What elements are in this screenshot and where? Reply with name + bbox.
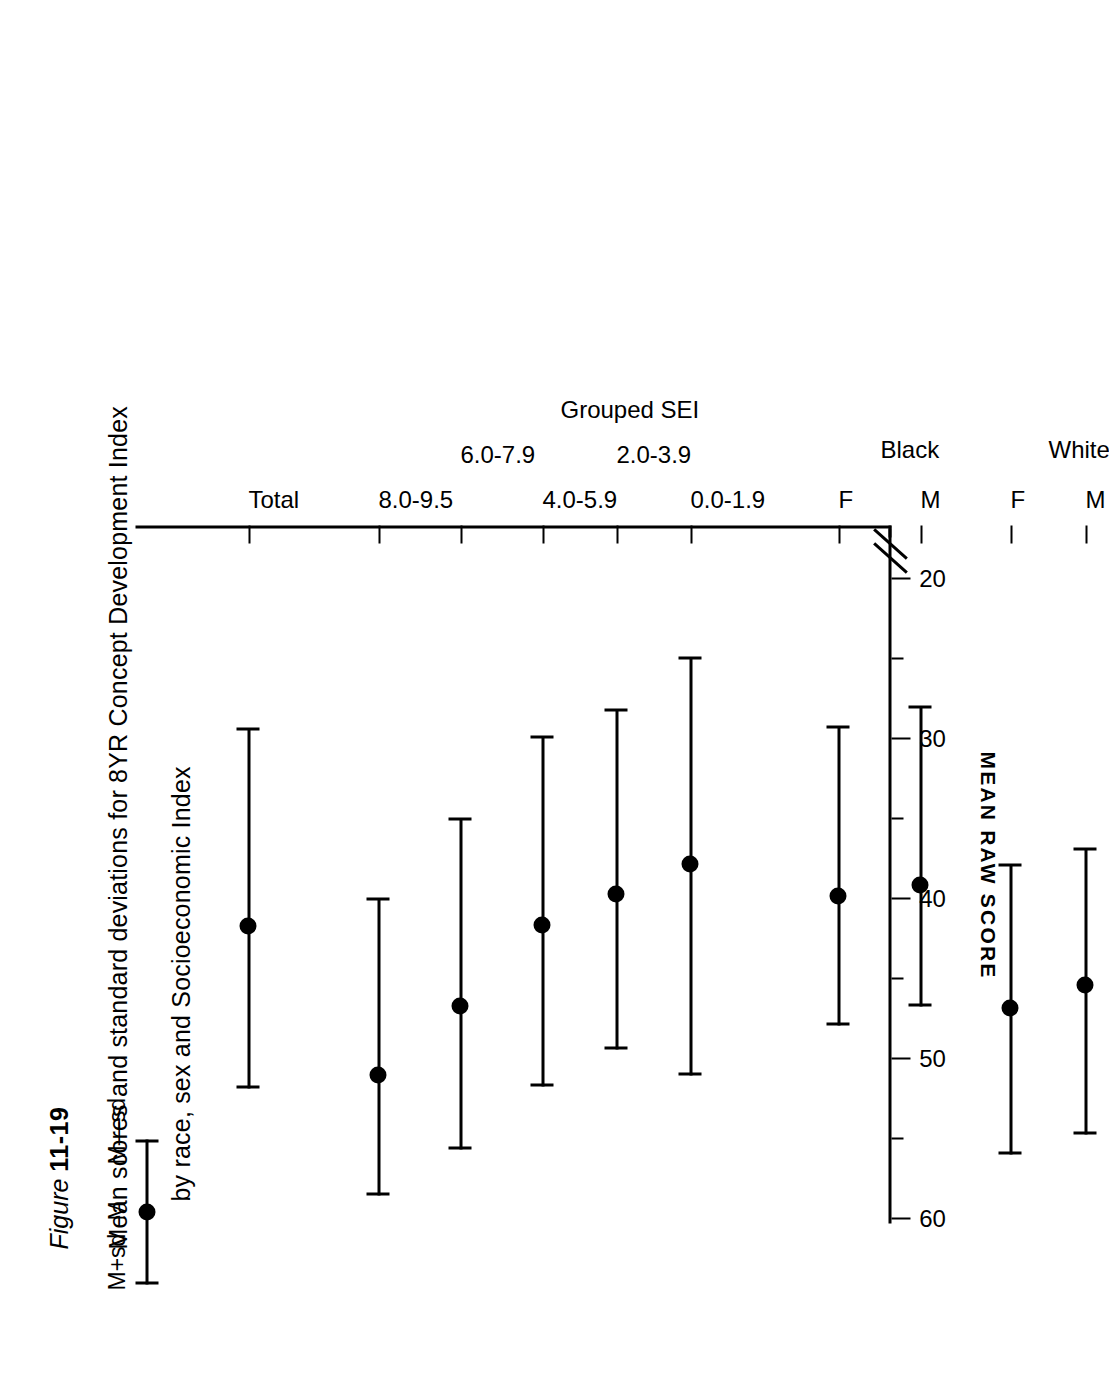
error-bar-line xyxy=(541,736,544,1086)
category-tick-6-0-7-9 xyxy=(460,525,462,543)
error-bar-cap-lower xyxy=(826,725,849,728)
error-bar-cap-upper xyxy=(236,1085,259,1088)
mean-dot xyxy=(607,885,624,902)
category-tick-0-0-1-9 xyxy=(690,525,692,543)
legend-upper-label: M+sd xyxy=(103,1233,130,1290)
group-label-white: White xyxy=(1048,435,1109,463)
mean-dot xyxy=(369,1066,386,1083)
error-bar-cap-upper xyxy=(604,1046,627,1049)
mean-dot xyxy=(911,876,928,893)
category-label-8-0-9-5: 8.0-9.5 xyxy=(378,485,453,513)
figure-number-prefix: Figure xyxy=(44,1178,72,1249)
category-label-white-f: F xyxy=(1010,485,1025,513)
figure-number: Figure 11-19 xyxy=(46,1106,71,1249)
mean-dot xyxy=(1076,976,1093,993)
value-tick-label-50: 50 xyxy=(919,1044,946,1072)
error-bar-cap-lower xyxy=(908,705,931,708)
error-bar-cap-lower xyxy=(678,656,701,659)
category-tick-8-0-9-5 xyxy=(378,525,380,543)
category-label-0-0-1-9: 0.0-1.9 xyxy=(690,485,765,513)
error-bar-cap-upper xyxy=(998,1151,1021,1154)
value-tick-25 xyxy=(891,657,903,659)
error-bar-line xyxy=(615,709,618,1049)
legend-lower-label: M—sd xyxy=(103,1098,130,1164)
error-bar-cap-lower xyxy=(604,708,627,711)
error-bar-cap-upper xyxy=(678,1072,701,1075)
category-axis-title: Grouped SEI xyxy=(560,395,699,423)
value-axis-line xyxy=(888,528,891,1223)
mean-dot xyxy=(681,855,698,872)
figure-number-value: 11-19 xyxy=(44,1106,72,1171)
category-label-2-0-3-9: 2.0-3.9 xyxy=(616,440,691,468)
error-bar-cap-lower xyxy=(236,727,259,730)
category-label-black-f: F xyxy=(838,485,853,513)
value-tick-label-30: 30 xyxy=(919,724,946,752)
error-bar-cap-lower xyxy=(998,863,1021,866)
error-bar-line xyxy=(247,728,250,1088)
error-bar-cap-upper xyxy=(826,1022,849,1025)
category-label-total: Total xyxy=(248,485,299,513)
category-label-6-0-7-9: 6.0-7.9 xyxy=(460,440,535,468)
error-bar-line xyxy=(919,706,922,1006)
error-bar-cap-upper xyxy=(448,1146,471,1149)
category-tick-4-0-5-9 xyxy=(542,525,544,543)
group-label-black: Black xyxy=(880,435,939,463)
error-bar-line xyxy=(459,818,462,1149)
legend-center-label: M xyxy=(103,1201,130,1220)
mean-dot xyxy=(1001,999,1018,1016)
mean-dot xyxy=(451,997,468,1014)
mean-dot xyxy=(533,916,550,933)
category-label-black-m: M xyxy=(920,485,940,513)
mean-dot xyxy=(829,887,846,904)
category-tick-2-0-3-9 xyxy=(616,525,618,543)
error-bar-cap-upper xyxy=(1073,1131,1096,1134)
value-tick-30 xyxy=(891,737,910,739)
value-tick-35 xyxy=(891,817,903,819)
value-tick-60 xyxy=(891,1217,910,1219)
error-bar-cap-lower xyxy=(448,817,471,820)
value-tick-label-60: 60 xyxy=(919,1204,946,1232)
category-tick-white-f xyxy=(1010,525,1012,543)
error-bar-cap-lower xyxy=(530,735,553,738)
mean-dot xyxy=(239,917,256,934)
error-bar-line xyxy=(837,726,840,1025)
category-label-4-0-5-9: 4.0-5.9 xyxy=(542,485,617,513)
category-label-white-m: M xyxy=(1085,485,1105,513)
error-bar-cap-upper xyxy=(908,1003,931,1006)
figure-title-line-2: by race, sex and Socioeconomic Index xyxy=(168,766,193,1201)
value-tick-55 xyxy=(891,1137,903,1139)
value-tick-40 xyxy=(891,897,910,899)
value-tick-20 xyxy=(891,577,910,579)
legend-lower-cap xyxy=(135,1139,158,1142)
legend-mean-dot xyxy=(138,1203,155,1220)
error-bar-line xyxy=(377,898,380,1195)
value-tick-50 xyxy=(891,1057,910,1059)
category-tick-total xyxy=(248,525,250,543)
error-bar-cap-upper xyxy=(366,1192,389,1195)
legend-upper-cap xyxy=(135,1281,158,1284)
error-bar-cap-upper xyxy=(530,1083,553,1086)
error-bar-cap-lower xyxy=(366,897,389,900)
category-tick-black-f xyxy=(838,525,840,543)
value-axis-title: MEAN RAW SCORE xyxy=(975,751,999,979)
error-bar-cap-lower xyxy=(1073,847,1096,850)
value-tick-label-20: 20 xyxy=(919,564,946,592)
category-tick-black-m xyxy=(920,525,922,543)
value-tick-45 xyxy=(891,977,903,979)
category-tick-white-m xyxy=(1085,525,1087,543)
